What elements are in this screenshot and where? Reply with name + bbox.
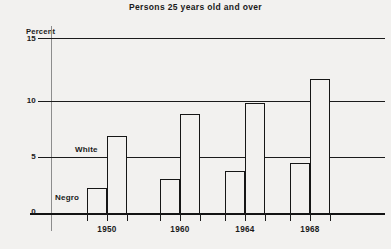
- y-tick-label-5: 5: [22, 152, 36, 161]
- x-axis-label-1960: 1960: [160, 225, 200, 234]
- x-tick: [245, 213, 246, 221]
- x-tick: [160, 213, 161, 221]
- gridline-10: [38, 101, 385, 102]
- series-annotation-negro: Negro: [54, 193, 80, 202]
- bar-negro-1964: [225, 171, 245, 214]
- x-tick: [200, 213, 201, 221]
- axis-baseline-0: [30, 213, 385, 215]
- y-tick-label-10: 10: [22, 96, 36, 105]
- bar-white-1968: [310, 79, 330, 214]
- x-tick: [87, 213, 88, 221]
- bar-white-1950: [107, 136, 127, 214]
- chart-container: Persons 25 years old and over Percent 15…: [0, 0, 391, 249]
- x-tick: [180, 213, 181, 221]
- x-axis-label-1964: 1964: [225, 225, 265, 234]
- y-tick-label-0: 0: [22, 207, 36, 216]
- bar-negro-1950: [87, 188, 107, 214]
- x-tick: [225, 213, 226, 221]
- x-tick: [127, 213, 128, 221]
- x-tick: [310, 213, 311, 221]
- x-tick: [290, 213, 291, 221]
- bar-negro-1960: [160, 179, 180, 214]
- bar-negro-1968: [290, 163, 310, 214]
- plot-area: Percent 15 10 5 0 White Negro: [0, 0, 391, 249]
- gridline-15: [38, 38, 385, 39]
- x-tick: [265, 213, 266, 221]
- y-tick-label-15: 15: [22, 34, 36, 43]
- gridline-5: [38, 157, 385, 158]
- x-axis-label-1968: 1968: [290, 225, 330, 234]
- x-tick: [107, 213, 108, 221]
- bar-white-1964: [245, 103, 265, 214]
- x-tick: [330, 213, 331, 221]
- x-axis-label-1950: 1950: [87, 225, 127, 234]
- y-axis-rule: [51, 26, 52, 231]
- series-annotation-white: White: [74, 145, 99, 154]
- bar-white-1960: [180, 114, 200, 214]
